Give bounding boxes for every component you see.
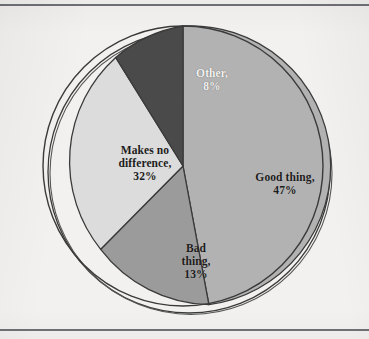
pie-label-good-thing: Good thing, 47% xyxy=(237,171,333,197)
top-horizontal-rule xyxy=(0,4,369,6)
pie-label-bad-thing-line2: thing, xyxy=(165,255,227,268)
pie-label-makes-no-difference: Makes no difference, 32% xyxy=(89,144,201,183)
pie-label-makes-no-difference-line1: Makes no xyxy=(89,144,201,157)
pie-chart: Good thing, 47% Bad thing, 13% Makes no … xyxy=(0,7,369,328)
pie-graphic: Good thing, 47% Bad thing, 13% Makes no … xyxy=(41,24,323,306)
pie-label-makes-no-difference-line2: difference, xyxy=(89,157,201,170)
pie-label-bad-thing: Bad thing, 13% xyxy=(165,242,227,281)
bottom-horizontal-rule xyxy=(0,329,369,331)
pie-label-other: Other, 8% xyxy=(181,67,243,93)
pie-label-bad-thing-line3: 13% xyxy=(165,268,227,281)
pie-label-bad-thing-line1: Bad xyxy=(165,242,227,255)
pie-label-makes-no-difference-line3: 32% xyxy=(89,170,201,183)
pie-label-other-line2: 8% xyxy=(181,80,243,93)
pie-label-good-thing-line1: Good thing, xyxy=(237,171,333,184)
pie-label-other-line1: Other, xyxy=(181,67,243,80)
pie-label-good-thing-line2: 47% xyxy=(237,184,333,197)
figure-page: Good thing, 47% Bad thing, 13% Makes no … xyxy=(0,0,369,339)
